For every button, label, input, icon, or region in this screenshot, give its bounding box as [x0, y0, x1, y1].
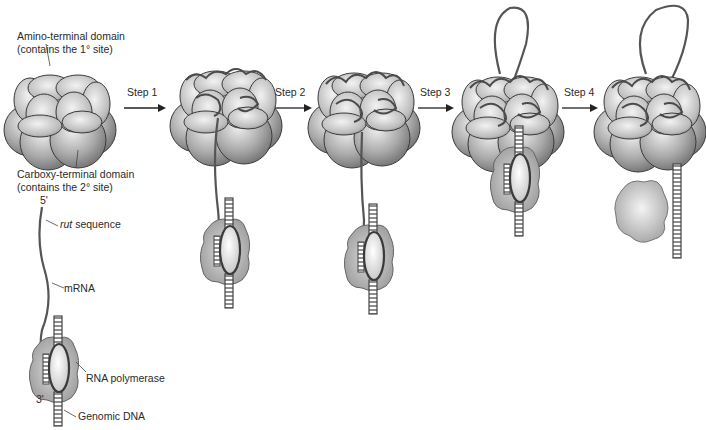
five-prime-label: 5'	[40, 194, 48, 207]
stage-rho-translocating	[308, 72, 420, 314]
amino-domain-line1: Amino-terminal domain	[17, 30, 125, 43]
amino-domain-line2: (contains the 1° site)	[17, 43, 125, 56]
genomic-dna-label: Genomic DNA	[78, 410, 145, 423]
carboxy-domain-line1: Carboxy-terminal domain	[17, 168, 134, 181]
step-2-label: Step 2	[275, 86, 305, 98]
three-prime-label: 3'	[36, 393, 44, 406]
step-4-label: Step 4	[564, 86, 594, 98]
rna-polymerase-label: RNA polymerase	[86, 372, 165, 385]
rut-italic: rut	[60, 218, 72, 230]
stage-termination	[594, 6, 706, 258]
stage-rho-bound	[170, 69, 282, 308]
stage-free-rho	[4, 44, 116, 426]
carboxy-domain-line2: (contains the 2° site)	[17, 181, 134, 194]
stage-rho-reaches-polymerase	[452, 8, 564, 236]
rho-termination-diagram: Amino-terminal domain (contains the 1° s…	[0, 0, 706, 430]
mrna-label: mRNA	[64, 282, 95, 295]
carboxy-domain-label: Carboxy-terminal domain (contains the 2°…	[17, 168, 134, 194]
rut-sequence-label: rut sequence	[60, 218, 121, 231]
amino-domain-label: Amino-terminal domain (contains the 1° s…	[17, 30, 125, 56]
rut-rest: sequence	[72, 218, 120, 230]
step-3-label: Step 3	[420, 86, 450, 98]
step-1-label: Step 1	[127, 86, 157, 98]
